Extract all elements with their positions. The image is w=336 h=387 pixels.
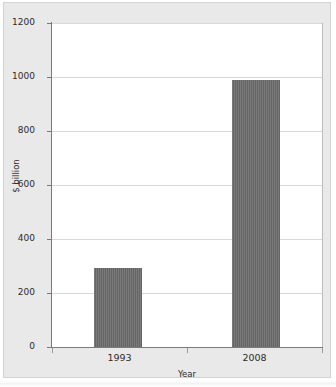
y-tick-label-0: 0 [29, 342, 35, 351]
gridline-200 [52, 293, 322, 294]
chart-screenshot: 1200 1000 800 600 400 200 0 1993 2008 Ye… [0, 0, 336, 387]
x-tick-label-2008: 2008 [187, 352, 322, 363]
y-tick-label-1000: 1000 [12, 72, 35, 81]
gridline-600 [52, 185, 322, 186]
y-tick-label-400: 400 [18, 234, 35, 243]
y-tick-label-1200: 1200 [12, 18, 35, 27]
y-tick-mark-1200 [47, 23, 52, 24]
y-tick-mark-200 [47, 293, 52, 294]
gridline-1200 [52, 23, 322, 24]
y-tick-label-800: 800 [18, 126, 35, 135]
y-tick-mark-800 [47, 131, 52, 132]
figure-panel: 1200 1000 800 600 400 200 0 1993 2008 Ye… [3, 2, 331, 378]
gridline-800 [52, 131, 322, 132]
y-tick-mark-1000 [47, 77, 52, 78]
scan-artifact-strip [0, 381, 336, 387]
x-tick-mark-right [322, 348, 323, 353]
gridline-1000 [52, 77, 322, 78]
x-axis-title: Year [52, 369, 322, 379]
x-tick-label-1993: 1993 [52, 352, 187, 363]
bar-1993 [94, 268, 142, 347]
gridline-400 [52, 239, 322, 240]
y-tick-mark-600 [47, 185, 52, 186]
bar-2008 [232, 80, 280, 347]
y-axis-title: $ billion [11, 146, 21, 206]
y-tick-mark-400 [47, 239, 52, 240]
y-tick-label-200: 200 [18, 288, 35, 297]
